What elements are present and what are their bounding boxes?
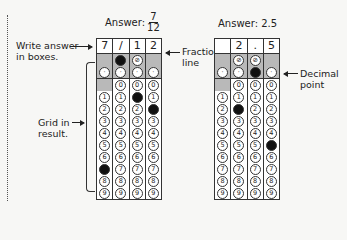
digit-bubble[interactable]: 7 xyxy=(233,164,244,175)
answer-box[interactable]: / xyxy=(113,39,129,53)
digit-bubble[interactable]: 7 xyxy=(148,164,159,175)
digit-bubble[interactable]: 3 xyxy=(250,116,261,127)
digit-bubble[interactable]: 5 xyxy=(217,140,228,151)
digit-bubble[interactable]: 2 xyxy=(266,104,277,115)
digit-bubble[interactable]: 4 xyxy=(217,128,228,139)
digit-bubble[interactable]: 8 xyxy=(233,176,244,187)
digit-bubble[interactable]: 1 xyxy=(99,92,110,103)
digit-bubble[interactable]: 0 xyxy=(266,80,277,91)
digit-bubble[interactable]: 8 xyxy=(99,176,110,187)
decimal-bubble[interactable]: · xyxy=(115,67,126,78)
digit-bubble[interactable]: 2 xyxy=(115,104,126,115)
digit-bubble[interactable]: 7 xyxy=(99,164,110,175)
digit-bubble[interactable]: 0 xyxy=(250,80,261,91)
answer-box[interactable]: 2 xyxy=(231,39,247,53)
digit-bubble[interactable]: 8 xyxy=(148,176,159,187)
digit-bubble[interactable]: 8 xyxy=(217,176,228,187)
digit-bubble[interactable]: 8 xyxy=(250,176,261,187)
digit-bubble[interactable]: 2 xyxy=(250,104,261,115)
digit-bubble[interactable]: 5 xyxy=(132,140,143,151)
digit-bubble[interactable]: 9 xyxy=(115,188,126,199)
digit-bubble[interactable]: 1 xyxy=(115,92,126,103)
digit-bubble[interactable]: 7 xyxy=(132,164,143,175)
answer-box[interactable]: 2 xyxy=(146,39,161,53)
digit-bubble[interactable]: 3 xyxy=(217,116,228,127)
slash-bubble[interactable] xyxy=(115,55,126,66)
digit-bubble[interactable]: 0 xyxy=(115,80,126,91)
digit-row: 6666 xyxy=(215,151,279,163)
digit-bubble[interactable]: 5 xyxy=(99,140,110,151)
decimal-bubble[interactable]: · xyxy=(217,67,228,78)
digit-bubble[interactable]: 9 xyxy=(132,188,143,199)
digit-bubble[interactable]: 2 xyxy=(217,104,228,115)
digit-bubble[interactable]: 1 xyxy=(148,92,159,103)
digit-bubble[interactable]: 2 xyxy=(99,104,110,115)
digit-bubble[interactable]: 4 xyxy=(115,128,126,139)
answer-box[interactable] xyxy=(215,39,231,53)
digit-bubble[interactable]: 4 xyxy=(99,128,110,139)
digit-bubble[interactable]: 4 xyxy=(266,128,277,139)
digit-bubble[interactable]: 6 xyxy=(148,152,159,163)
digit-bubble[interactable]: 9 xyxy=(233,188,244,199)
digit-bubble[interactable]: 4 xyxy=(148,128,159,139)
slash-bubble[interactable]: ⊘ xyxy=(233,55,244,66)
digit-bubble[interactable]: 4 xyxy=(132,128,143,139)
digit-bubble[interactable]: 0 xyxy=(132,80,143,91)
slash-bubble[interactable]: ⊘ xyxy=(250,55,261,66)
digit-bubble[interactable]: 6 xyxy=(217,152,228,163)
digit-bubble[interactable]: 5 xyxy=(115,140,126,151)
digit-bubble[interactable]: 1 xyxy=(266,92,277,103)
decimal-bubble[interactable]: · xyxy=(99,67,110,78)
answer-box[interactable]: 1 xyxy=(130,39,146,53)
digit-bubble[interactable]: 3 xyxy=(132,116,143,127)
digit-bubble[interactable]: 5 xyxy=(148,140,159,151)
digit-bubble[interactable]: 6 xyxy=(99,152,110,163)
digit-bubble[interactable]: 5 xyxy=(233,140,244,151)
digit-bubble[interactable]: 1 xyxy=(233,92,244,103)
decimal-bubble[interactable]: · xyxy=(233,67,244,78)
digit-bubble[interactable]: 5 xyxy=(250,140,261,151)
digit-bubble[interactable]: 9 xyxy=(148,188,159,199)
digit-bubble[interactable]: 7 xyxy=(266,164,277,175)
digit-bubble[interactable]: 8 xyxy=(132,176,143,187)
digit-bubble[interactable]: 9 xyxy=(217,188,228,199)
digit-bubble[interactable]: 2 xyxy=(148,104,159,115)
digit-bubble[interactable]: 5 xyxy=(266,140,277,151)
decimal-bubble[interactable] xyxy=(250,67,261,78)
digit-bubble[interactable]: 8 xyxy=(115,176,126,187)
digit-bubble[interactable]: 6 xyxy=(250,152,261,163)
digit-bubble[interactable]: 0 xyxy=(148,80,159,91)
decimal-bubble[interactable]: · xyxy=(266,67,277,78)
digit-bubble[interactable]: 4 xyxy=(233,128,244,139)
digit-bubble[interactable]: 9 xyxy=(266,188,277,199)
digit-bubble[interactable]: 0 xyxy=(233,80,244,91)
digit-bubble[interactable]: 8 xyxy=(266,176,277,187)
answer-box[interactable]: 7 xyxy=(97,39,113,53)
digit-bubble[interactable]: 2 xyxy=(233,104,244,115)
digit-bubble[interactable]: 6 xyxy=(266,152,277,163)
digit-bubble[interactable]: 1 xyxy=(132,92,143,103)
digit-bubble[interactable]: 7 xyxy=(250,164,261,175)
digit-bubble[interactable]: 1 xyxy=(250,92,261,103)
digit-bubble[interactable]: 4 xyxy=(250,128,261,139)
answer-box[interactable]: 5 xyxy=(264,39,279,53)
digit-bubble[interactable]: 3 xyxy=(148,116,159,127)
digit-bubble[interactable]: 6 xyxy=(132,152,143,163)
digit-bubble[interactable]: 9 xyxy=(99,188,110,199)
digit-bubble[interactable]: 3 xyxy=(115,116,126,127)
digit-bubble[interactable]: 1 xyxy=(217,92,228,103)
digit-bubble[interactable]: 3 xyxy=(99,116,110,127)
digit-bubble[interactable]: 6 xyxy=(115,152,126,163)
digit-bubble[interactable]: 7 xyxy=(217,164,228,175)
decimal-bubble[interactable]: · xyxy=(132,67,143,78)
decimal-bubble[interactable]: · xyxy=(148,67,159,78)
digit-bubble[interactable]: 9 xyxy=(250,188,261,199)
slash-row: ⊘⊘ xyxy=(215,54,279,66)
digit-bubble[interactable]: 6 xyxy=(233,152,244,163)
digit-bubble[interactable]: 3 xyxy=(266,116,277,127)
digit-bubble[interactable]: 7 xyxy=(115,164,126,175)
answer-box[interactable]: . xyxy=(248,39,264,53)
digit-bubble[interactable]: 2 xyxy=(132,104,143,115)
digit-bubble[interactable]: 3 xyxy=(233,116,244,127)
slash-bubble[interactable]: ⊘ xyxy=(132,55,143,66)
